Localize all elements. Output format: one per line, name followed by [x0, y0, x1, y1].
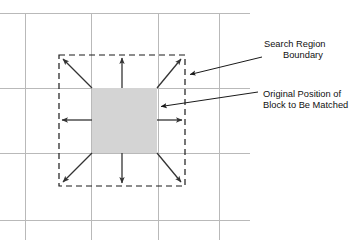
block-label: Original Position of Block to Be Matched — [263, 89, 348, 110]
block-matching-diagram: Search Region Boundary Original Position… — [0, 0, 354, 241]
diagram-canvas: Search Region Boundary Original Position… — [0, 0, 354, 241]
leader-line-search-region — [190, 57, 262, 75]
block-label-line2: Block to Be Matched — [263, 100, 348, 110]
search-region-label-line1: Search Region — [264, 39, 326, 49]
arrow-down-right-icon — [157, 153, 181, 182]
leader-line-block — [161, 92, 258, 107]
arrow-down-left-icon — [63, 153, 92, 182]
arrow-up-left-icon — [63, 59, 92, 88]
search-region-label: Search Region Boundary — [264, 39, 328, 60]
search-region-label-line2: Boundary — [283, 50, 323, 60]
arrow-up-right-icon — [157, 59, 181, 88]
block-label-line1: Original Position of — [263, 89, 341, 99]
original-block-rect — [92, 88, 157, 153]
